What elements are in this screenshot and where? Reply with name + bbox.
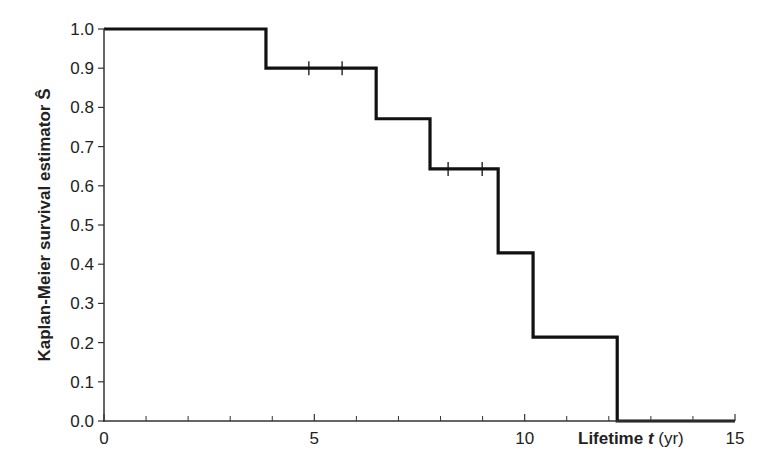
y-tick-label: 0.8	[70, 98, 94, 117]
axes	[103, 29, 735, 422]
y-tick-label: 0.2	[70, 334, 94, 353]
x-tick-label: 15	[726, 429, 745, 448]
y-tick-label: 0.9	[70, 59, 94, 78]
y-tick-label: 0.5	[70, 216, 94, 235]
y-tick-label: 0.3	[70, 294, 94, 313]
plot-area	[104, 29, 735, 421]
y-tick-label: 0.6	[70, 177, 94, 196]
x-tick-label: 0	[99, 429, 108, 448]
x-tick-label: 10	[515, 429, 534, 448]
x-axis-label: Lifetime t (yr)	[578, 429, 684, 448]
y-tick-label: 0.0	[70, 412, 94, 431]
x-axis-label-unit: (yr)	[654, 429, 684, 448]
y-tick-label: 0.7	[70, 138, 94, 157]
y-tick-label: 1.0	[70, 20, 94, 39]
km-chart: 0.00.10.20.30.40.50.60.70.80.91.0 051015…	[0, 0, 777, 476]
y-axis-label: Kaplan-Meier survival estimator Ŝ	[35, 88, 54, 361]
y-axis-ticks: 0.00.10.20.30.40.50.60.70.80.91.0	[70, 20, 104, 431]
y-tick-label: 0.4	[70, 255, 94, 274]
survival-step-line	[104, 29, 735, 421]
x-tick-label: 5	[310, 429, 319, 448]
y-tick-label: 0.1	[70, 373, 94, 392]
x-axis-label-main: Lifetime	[578, 429, 648, 448]
